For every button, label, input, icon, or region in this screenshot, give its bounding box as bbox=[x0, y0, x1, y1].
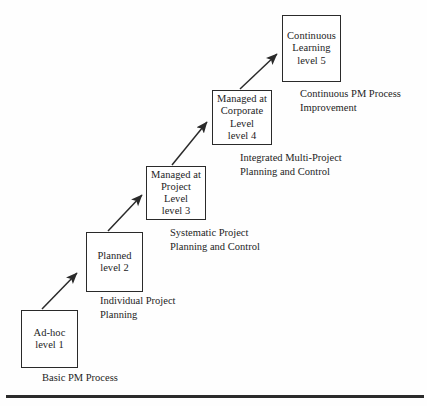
caption-level-3: Systematic Project Planning and Control bbox=[170, 226, 260, 254]
caption-level-5-line-2: Improvement bbox=[300, 101, 401, 115]
stage-box-level-4-line-4: level 4 bbox=[228, 130, 257, 142]
caption-level-2-line-1: Individual Project bbox=[100, 294, 176, 308]
caption-level-2-line-2: Planning bbox=[100, 308, 176, 322]
maturity-diagram-canvas: Ad-hoc level 1 Basic PM Process Planned … bbox=[0, 0, 427, 406]
stage-box-level-4-line-3: Level bbox=[230, 118, 254, 130]
stage-box-level-2-line-1: Planned bbox=[97, 250, 131, 262]
stage-box-level-4: Managed at Corporate Level level 4 bbox=[212, 90, 272, 145]
caption-level-3-line-1: Systematic Project bbox=[170, 226, 260, 240]
stage-box-level-1-line-2: level 1 bbox=[35, 339, 64, 351]
stage-box-level-1-line-1: Ad-hoc bbox=[34, 327, 66, 339]
stage-box-level-5-line-1: Continuous bbox=[287, 30, 336, 42]
arrow-level4-to-level5 bbox=[240, 54, 277, 89]
stage-box-level-5-line-2: Learning bbox=[292, 42, 330, 54]
caption-level-4-line-2: Planning and Control bbox=[240, 165, 342, 179]
caption-level-2: Individual Project Planning bbox=[100, 294, 176, 322]
caption-level-1-line-1: Basic PM Process bbox=[42, 371, 118, 385]
caption-level-3-line-2: Planning and Control bbox=[170, 240, 260, 254]
stage-box-level-2-line-2: level 2 bbox=[100, 262, 129, 274]
caption-level-4-line-1: Integrated Multi-Project bbox=[240, 151, 342, 165]
stage-box-level-3-line-1: Managed at bbox=[151, 169, 201, 181]
stage-box-level-2: Planned level 2 bbox=[86, 232, 143, 292]
stage-box-level-3-line-3: Level bbox=[164, 193, 188, 205]
stage-box-level-1: Ad-hoc level 1 bbox=[21, 310, 78, 368]
baseline-rule bbox=[6, 395, 424, 398]
caption-level-1: Basic PM Process bbox=[42, 371, 118, 385]
arrow-level3-to-level4 bbox=[172, 122, 207, 165]
arrow-level1-to-level2 bbox=[42, 273, 77, 309]
caption-level-4: Integrated Multi-Project Planning and Co… bbox=[240, 151, 342, 179]
stage-box-level-3: Managed at Project Level level 3 bbox=[146, 166, 206, 220]
stage-box-level-3-line-2: Project bbox=[161, 181, 191, 193]
caption-level-5: Continuous PM Process Improvement bbox=[300, 87, 401, 115]
arrow-level2-to-level3 bbox=[108, 195, 142, 231]
stage-box-level-4-line-1: Managed at bbox=[217, 93, 267, 105]
stage-box-level-5-line-3: level 5 bbox=[297, 55, 326, 67]
stage-box-level-5: Continuous Learning level 5 bbox=[282, 15, 341, 82]
stage-box-level-3-line-4: level 3 bbox=[162, 205, 191, 217]
caption-level-5-line-1: Continuous PM Process bbox=[300, 87, 401, 101]
stage-box-level-4-line-2: Corporate bbox=[221, 105, 263, 117]
